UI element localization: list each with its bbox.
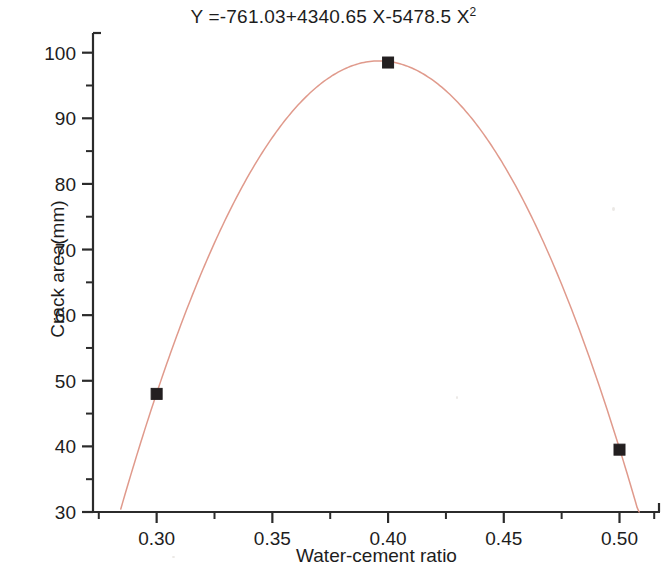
scan-speckle (612, 207, 615, 211)
scan-speckle (456, 396, 458, 399)
scan-speckle (172, 556, 175, 558)
x-axis-label: Water-cement ratio (93, 545, 660, 567)
axis-ticks (82, 53, 654, 523)
y-axis-tick-label: 30 (55, 502, 76, 523)
plot-area: 30405060708090100 0.300.350.400.450.50 (0, 0, 667, 581)
data-point-marker (383, 57, 394, 68)
quadratic-fit-curve (121, 61, 639, 512)
data-point-markers (151, 57, 625, 455)
data-point-marker (151, 388, 162, 399)
y-axis-tick-label: 100 (44, 43, 76, 64)
y-axis-label: Crack area(mm) (47, 119, 69, 419)
data-point-marker (614, 444, 625, 455)
y-axis-tick-label: 40 (55, 436, 76, 457)
axis-spines (93, 33, 660, 512)
chart-figure: Y =-761.03+4340.65 X-5478.5 X2 304050607… (0, 0, 667, 581)
